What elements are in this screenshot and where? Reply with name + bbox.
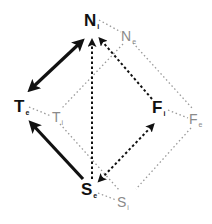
node-s-i: Si [117,194,129,210]
node-letter: T [14,97,24,116]
edge-fi-fe [168,110,188,118]
node-letter: F [152,98,162,117]
node-letter: S [81,180,92,199]
node-subscript: i [97,23,99,30]
node-subscript: e [199,121,203,128]
node-subscript: i [163,110,165,117]
node-subscript: e [132,38,136,45]
node-f-i: Fi [152,99,165,116]
edge-te-ti [29,107,51,116]
node-subscript: i [62,119,64,126]
node-letter: N [121,28,131,44]
edge-se-te [32,124,83,179]
edge-fi-ni [101,40,152,99]
node-subscript: e [93,192,97,199]
edge-fe-si [136,128,191,189]
edge-se-si [98,193,116,200]
node-letter: S [117,194,126,210]
node-n-i: Ni [84,12,99,29]
node-subscript: i [127,204,129,211]
node-t-i: Ti [52,109,63,125]
diagram-edges [0,0,212,224]
node-subscript: e [25,109,29,116]
edge-se-fi [101,126,152,179]
node-f-e: Fe [189,111,202,127]
node-letter: F [189,111,198,127]
edge-ni-ne [99,20,121,32]
diagram-canvas: Ni Ne Te Ti Fi Fe Se Si [0,0,212,224]
node-letter: N [84,11,96,30]
node-n-e: Ne [121,28,136,44]
edge-te-ni [33,42,81,87]
node-s-e: Se [81,181,97,198]
node-letter: T [52,109,61,125]
node-t-e: Te [14,98,29,115]
